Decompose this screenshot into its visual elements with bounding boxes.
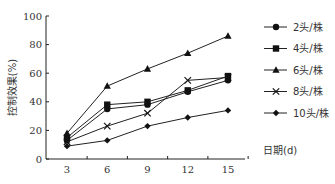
y-tick-label: 20 xyxy=(29,125,42,136)
line-chart: 0204060801003691215控制效果(%)日期(d)2头/株4头/株6… xyxy=(0,0,335,184)
legend-label: 6头/株 xyxy=(293,64,323,76)
y-tick-label: 0 xyxy=(36,154,42,165)
x-axis-label: 日期(d) xyxy=(263,145,297,156)
x-tick-label: 6 xyxy=(104,164,110,175)
x-tick-label: 12 xyxy=(181,164,194,175)
legend-label: 8头/株 xyxy=(293,85,323,97)
y-tick-label: 100 xyxy=(23,11,42,22)
legend-item: 2头/株 xyxy=(264,21,323,33)
y-tick-label: 40 xyxy=(29,96,42,107)
legend-label: 10头/株 xyxy=(293,107,329,119)
x-tick-label: 9 xyxy=(144,164,150,175)
legend-item: 10头/株 xyxy=(264,107,329,119)
legend-label: 2头/株 xyxy=(293,21,323,33)
y-axis-label: 控制效果(%) xyxy=(6,59,18,116)
x-tick-label: 15 xyxy=(222,164,235,175)
legend-item: 4头/株 xyxy=(264,42,323,54)
legend-label: 4头/株 xyxy=(293,42,323,54)
legend-item: 6头/株 xyxy=(264,64,323,76)
x-tick-label: 3 xyxy=(64,164,70,175)
legend-item: 8头/株 xyxy=(264,85,323,97)
y-tick-label: 80 xyxy=(29,39,42,50)
series-x xyxy=(64,74,231,145)
y-tick-label: 60 xyxy=(29,68,42,79)
